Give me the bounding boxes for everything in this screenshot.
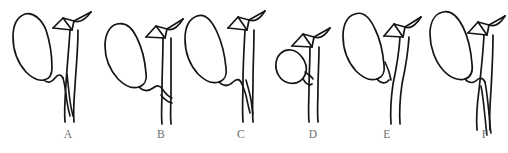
panel-label-b: B bbox=[151, 128, 171, 140]
panel-label-a: A bbox=[58, 128, 78, 140]
panel-label-c: C bbox=[231, 128, 251, 140]
figure-root: A B C D E F bbox=[0, 0, 508, 153]
panel-label-f: F bbox=[475, 128, 495, 140]
panel-label-d: D bbox=[303, 128, 323, 140]
panel-label-e: E bbox=[377, 128, 397, 140]
